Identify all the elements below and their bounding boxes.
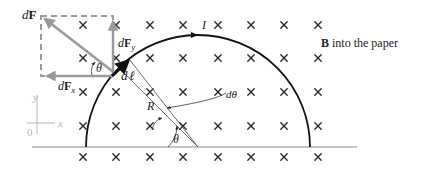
theta-center-label: θ <box>173 132 179 146</box>
field-x-mark-icon <box>113 89 119 95</box>
field-x-mark-icon <box>315 22 321 28</box>
field-x-mark-icon <box>147 55 153 61</box>
semicircle-force-diagram: dF dFy dFx dℓ θ I R dθ θ B into the pape… <box>0 0 430 172</box>
current-label: I <box>201 18 207 32</box>
field-x-mark-icon <box>248 22 254 28</box>
dF-label: dF <box>22 7 37 22</box>
field-x-mark-icon <box>315 123 321 129</box>
field-x-mark-icon <box>315 154 321 160</box>
field-x-mark-icon <box>248 123 254 129</box>
axis-origin-label: 0 <box>27 126 33 138</box>
field-x-mark-icon <box>315 55 321 61</box>
field-x-mark-icon <box>147 154 153 160</box>
field-x-mark-icon <box>281 55 287 61</box>
field-x-mark-icon <box>281 22 287 28</box>
force-theta-arc <box>91 62 95 75</box>
field-x-mark-icon <box>248 55 254 61</box>
field-x-mark-icon <box>281 123 287 129</box>
dFx-label: dFx <box>58 79 75 95</box>
field-x-mark-icon <box>113 154 119 160</box>
field-x-mark-icon <box>80 89 86 95</box>
dtheta-side-arrow <box>152 118 162 130</box>
field-x-mark-icon <box>180 55 186 61</box>
current-direction-arrow-icon <box>191 32 198 38</box>
magnetic-field-marks <box>80 22 321 160</box>
field-x-mark-icon <box>180 154 186 160</box>
field-x-mark-icon <box>147 22 153 28</box>
field-x-mark-icon <box>315 89 321 95</box>
force-theta-label: θ <box>96 61 102 75</box>
field-x-mark-icon <box>215 154 221 160</box>
field-x-mark-icon <box>248 89 254 95</box>
field-x-mark-icon <box>80 123 86 129</box>
field-x-mark-icon <box>281 89 287 95</box>
field-x-mark-icon <box>80 154 86 160</box>
field-x-mark-icon <box>80 55 86 61</box>
dl-label: dℓ <box>121 68 135 83</box>
dtheta-label: dθ <box>226 88 238 100</box>
field-x-mark-icon <box>215 123 221 129</box>
field-x-mark-icon <box>248 154 254 160</box>
radius-label: R <box>146 99 155 113</box>
field-x-mark-icon <box>147 89 153 95</box>
semicircle-current-path <box>86 35 310 147</box>
field-x-mark-icon <box>113 123 119 129</box>
field-x-mark-icon <box>180 89 186 95</box>
dtheta-pointer <box>167 93 226 108</box>
field-x-mark-icon <box>80 22 86 28</box>
field-x-mark-icon <box>215 55 221 61</box>
field-x-mark-icon <box>281 154 287 160</box>
field-x-mark-icon <box>215 89 221 95</box>
dFy-label: dFy <box>118 36 135 52</box>
field-direction-label: B into the paper <box>321 36 398 50</box>
field-x-mark-icon <box>215 22 221 28</box>
field-x-mark-icon <box>180 22 186 28</box>
axis-y-label: y <box>32 91 38 103</box>
radius-line-2 <box>129 59 198 147</box>
axis-x-label: x <box>57 117 63 129</box>
